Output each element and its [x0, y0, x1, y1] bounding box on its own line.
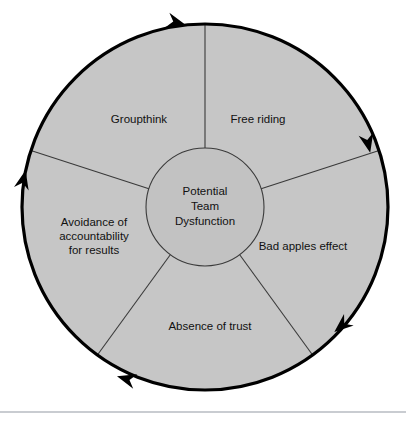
segment-label-bad-apples-effect: Bad apples effect — [259, 240, 348, 252]
hub-line-1: Potential — [183, 185, 228, 197]
cycle-diagram: Potential Team Dysfunction Free riding B… — [0, 0, 406, 423]
footer-divider — [0, 411, 406, 413]
segment-label-text: Groupthink — [111, 113, 168, 125]
cycle-diagram-canvas: Potential Team Dysfunction Free riding B… — [0, 0, 406, 423]
segment-label-line-1: Avoidance of — [61, 216, 128, 228]
segment-label-line-3: for results — [69, 244, 120, 256]
hub-line-2: Team — [191, 200, 219, 212]
segment-label-text: Absence of trust — [168, 320, 252, 332]
segment-label-groupthink: Groupthink — [111, 113, 168, 125]
segment-label-text: Free riding — [231, 113, 286, 125]
segment-label-line-2: accountability — [59, 230, 129, 242]
hub-line-3: Dysfunction — [175, 215, 235, 227]
segment-label-text: Bad apples effect — [259, 240, 348, 252]
segment-label-free-riding: Free riding — [231, 113, 286, 125]
segment-label-avoidance-of-accountability: Avoidance of accountability for results — [59, 216, 129, 256]
segment-label-absence-of-trust: Absence of trust — [168, 320, 252, 332]
